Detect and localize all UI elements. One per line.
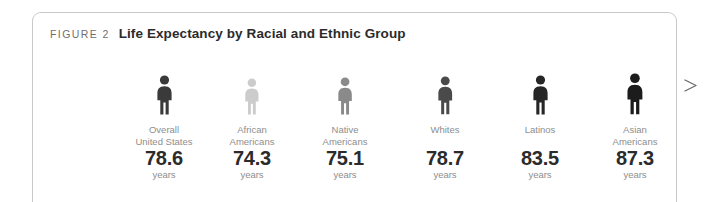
- group-column: NativeAmericans75.1years: [289, 71, 401, 180]
- figure-caption: FIGURE 2 Life Expectancy by Racial and E…: [50, 26, 406, 41]
- group-value: 87.3: [579, 147, 691, 169]
- figure-title: Life Expectancy by Racial and Ethnic Gro…: [119, 26, 406, 41]
- group-units: years: [579, 169, 691, 180]
- person-icon: [289, 71, 401, 115]
- group-column: AsianAmericans87.3years: [579, 71, 691, 180]
- group-units: years: [289, 169, 401, 180]
- life-expectancy-groups: OverallUnited States78.6yearsAfricanAmer…: [33, 71, 676, 188]
- figure-card: FIGURE 2 Life Expectancy by Racial and E…: [32, 12, 677, 188]
- figure-number: FIGURE 2: [50, 28, 110, 40]
- group-value: 75.1: [289, 147, 401, 169]
- person-icon: [579, 71, 691, 115]
- group-label: AsianAmericans: [579, 124, 691, 147]
- group-label: NativeAmericans: [289, 124, 401, 147]
